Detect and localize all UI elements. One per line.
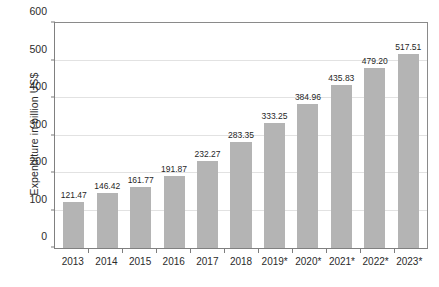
x-axis-tick-label: 2022* bbox=[359, 249, 393, 267]
bar[interactable]: 161.77 bbox=[130, 187, 151, 248]
x-axis-tick-label: 2017 bbox=[191, 249, 225, 267]
x-axis-tick-label: 2019* bbox=[258, 249, 292, 267]
bar[interactable]: 121.47 bbox=[63, 202, 84, 248]
y-axis-tick-label: 100 bbox=[29, 193, 47, 205]
x-axis-tick-mark bbox=[122, 249, 123, 253]
bar-slot: 161.77 bbox=[124, 23, 157, 248]
bar[interactable]: 283.35 bbox=[230, 142, 251, 248]
x-axis-tick-label: 2015 bbox=[123, 249, 157, 267]
bar-slot: 191.87 bbox=[157, 23, 190, 248]
x-axis-tick-mark bbox=[88, 249, 89, 253]
x-axis-tick-label: 2013 bbox=[56, 249, 90, 267]
bar-value-label: 333.25 bbox=[261, 111, 287, 121]
bar-slot: 121.47 bbox=[57, 23, 90, 248]
x-axis-tick-label: 2021* bbox=[325, 249, 359, 267]
bar-slot: 232.27 bbox=[191, 23, 224, 248]
x-axis-tick-mark bbox=[156, 249, 157, 253]
y-axis-tick-label: 400 bbox=[29, 80, 47, 92]
bar-value-label: 384.96 bbox=[295, 92, 321, 102]
bar[interactable]: 384.96 bbox=[297, 104, 318, 248]
bar[interactable]: 435.83 bbox=[331, 85, 352, 248]
bar[interactable]: 517.51 bbox=[398, 54, 419, 248]
x-axis-tick-label: 2018 bbox=[224, 249, 258, 267]
bar[interactable]: 146.42 bbox=[97, 193, 118, 248]
bar-value-label: 161.77 bbox=[128, 175, 154, 185]
bar[interactable]: 333.25 bbox=[264, 123, 285, 248]
y-axis-tick-label: 200 bbox=[29, 155, 47, 167]
y-axis-tick-label: 300 bbox=[29, 118, 47, 130]
bar-slot: 435.83 bbox=[325, 23, 358, 248]
bar[interactable]: 479.20 bbox=[364, 68, 385, 248]
bar-slot: 283.35 bbox=[224, 23, 257, 248]
bar-slot: 146.42 bbox=[90, 23, 123, 248]
bar-slot: 517.51 bbox=[392, 23, 425, 248]
x-axis-tick-mark bbox=[224, 249, 225, 253]
bar-value-label: 435.83 bbox=[328, 73, 354, 83]
bar-chart: Expenditure in billion US$ 0100200300400… bbox=[0, 0, 439, 287]
x-axis-tick-mark bbox=[292, 249, 293, 253]
y-axis-tick-label: 600 bbox=[29, 5, 47, 17]
x-axis-tick-label: 2023* bbox=[392, 249, 426, 267]
x-axis: 2013201420152016201720182019*2020*2021*2… bbox=[54, 249, 428, 267]
bar-value-label: 146.42 bbox=[94, 181, 120, 191]
bar-value-label: 517.51 bbox=[395, 42, 421, 52]
x-axis-tick-mark bbox=[326, 249, 327, 253]
x-axis-tick-mark bbox=[360, 249, 361, 253]
bar-slot: 333.25 bbox=[258, 23, 291, 248]
plot-area: 0100200300400500600 121.47146.42161.7719… bbox=[54, 22, 428, 249]
bar-value-label: 232.27 bbox=[195, 149, 221, 159]
bar-value-label: 283.35 bbox=[228, 130, 254, 140]
x-axis-tick-mark bbox=[190, 249, 191, 253]
x-axis-tick-label: 2016 bbox=[157, 249, 191, 267]
bar-value-label: 121.47 bbox=[61, 190, 87, 200]
x-axis-tick-label: 2020* bbox=[291, 249, 325, 267]
bar-series: 121.47146.42161.77191.87232.27283.35333.… bbox=[55, 23, 427, 248]
bar[interactable]: 191.87 bbox=[164, 176, 185, 248]
x-axis-tick-label: 2014 bbox=[90, 249, 124, 267]
bar-slot: 479.20 bbox=[358, 23, 391, 248]
bar-value-label: 479.20 bbox=[362, 56, 388, 66]
y-axis-tick-label: 0 bbox=[41, 230, 47, 242]
bar-slot: 384.96 bbox=[291, 23, 324, 248]
y-axis-tick-label: 500 bbox=[29, 43, 47, 55]
bar-value-label: 191.87 bbox=[161, 164, 187, 174]
x-axis-tick-mark bbox=[258, 249, 259, 253]
bar[interactable]: 232.27 bbox=[197, 161, 218, 248]
x-axis-tick-mark bbox=[394, 249, 395, 253]
